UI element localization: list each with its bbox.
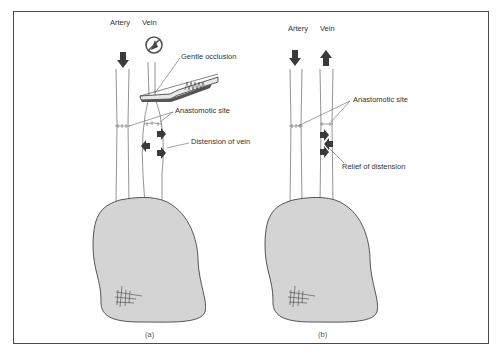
panel-a [93, 37, 218, 322]
artery-label-a: Artery [110, 19, 130, 27]
tissue-flap [265, 197, 378, 322]
occlusion-label: Gentle occlusion [181, 53, 236, 61]
tissue-flap [93, 197, 206, 322]
clamp-icon [140, 74, 218, 102]
no-flow-icon [146, 37, 162, 53]
panel-caption-b: (b) [318, 331, 327, 339]
inward-arrow-icon [320, 129, 333, 158]
distension-label: Distension of vein [191, 138, 250, 146]
anastomotic-site-label-a: Anastomotic site [175, 107, 230, 115]
vein-label-b: Vein [320, 25, 335, 33]
panel-caption-a: (a) [145, 331, 154, 339]
arrow-down-icon [289, 50, 301, 66]
arrow-up-icon [320, 50, 332, 66]
artery-label-b: Artery [288, 25, 308, 33]
diagram-figure: Artery Vein Gentle occlusion Anastomotic… [0, 0, 497, 357]
vein-label-a: Vein [142, 19, 157, 27]
anastomosis-sutures [115, 121, 162, 128]
artery-vessel [290, 69, 302, 205]
anastomosis-sutures [289, 122, 333, 128]
artery-vessel [116, 69, 129, 205]
arrow-down-icon [117, 52, 129, 68]
panel-b [265, 50, 378, 322]
relief-label: Relief of distension [342, 163, 405, 171]
outward-arrow-icon [141, 128, 166, 159]
diagram-canvas [0, 0, 497, 357]
anastomotic-site-label-b: Anastomotic site [353, 96, 408, 104]
